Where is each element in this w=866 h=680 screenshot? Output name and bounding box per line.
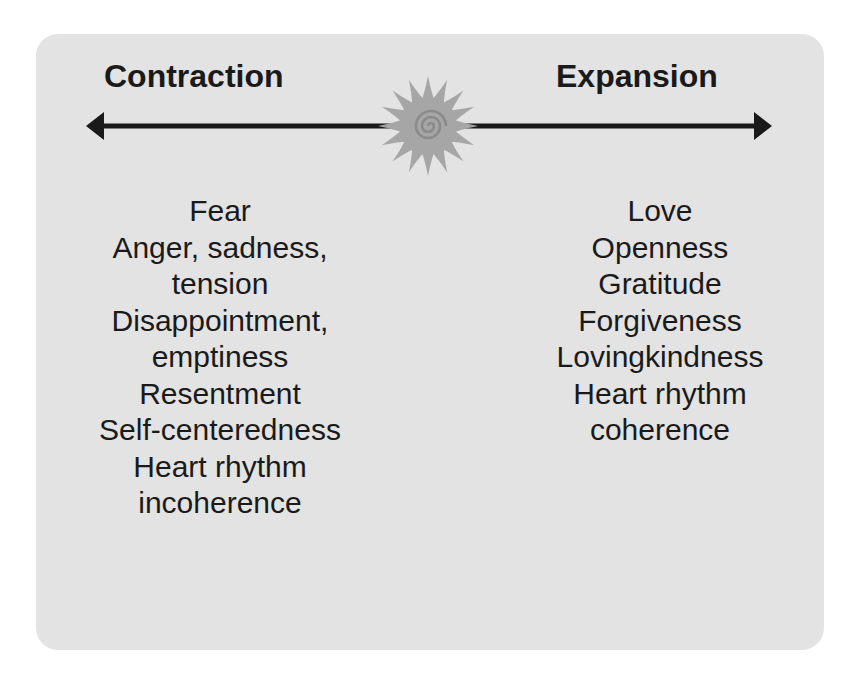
- list-item: Disappointment,: [40, 303, 400, 340]
- sun-spiral-icon: [378, 76, 478, 176]
- list-item: tension: [40, 266, 400, 303]
- list-item: coherence: [500, 412, 820, 449]
- right-arrow-icon: [460, 112, 772, 140]
- left-arrow-icon: [86, 112, 400, 140]
- double-arrow-axis: [0, 0, 866, 200]
- list-item: Lovingkindness: [500, 339, 820, 376]
- list-item: emptiness: [40, 339, 400, 376]
- list-item: Resentment: [40, 376, 400, 413]
- list-item: incoherence: [40, 485, 400, 522]
- contraction-list: Fear Anger, sadness, tension Disappointm…: [40, 193, 400, 522]
- list-item: Forgiveness: [500, 303, 820, 340]
- expansion-list: Love Openness Gratitude Forgiveness Lovi…: [500, 193, 820, 449]
- list-item: Heart rhythm: [40, 449, 400, 486]
- list-item: Self-centeredness: [40, 412, 400, 449]
- list-item: Anger, sadness,: [40, 230, 400, 267]
- list-item: Gratitude: [500, 266, 820, 303]
- list-item: Openness: [500, 230, 820, 267]
- list-item: Love: [500, 193, 820, 230]
- list-item: Fear: [40, 193, 400, 230]
- list-item: Heart rhythm: [500, 376, 820, 413]
